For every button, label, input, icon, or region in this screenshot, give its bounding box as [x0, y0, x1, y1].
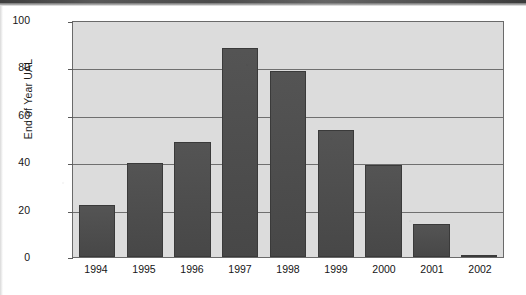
y-tick-label-100: 100 [0, 14, 30, 26]
x-tick-label-1997: 1997 [216, 263, 264, 275]
bar-slot-2000 [360, 22, 408, 257]
bar-slot-1994 [73, 22, 121, 257]
x-tick-label-1996: 1996 [168, 263, 216, 275]
bar-2001[interactable] [413, 224, 449, 257]
x-tick-label-2000: 2000 [360, 263, 408, 275]
bar-1997[interactable] [222, 48, 258, 257]
plot-area [72, 21, 504, 258]
bar-1994[interactable] [79, 205, 115, 257]
x-tick-label-2001: 2001 [408, 263, 456, 275]
bar-2002[interactable] [461, 255, 497, 257]
bar-slot-1999 [312, 22, 360, 257]
bar-slot-1997 [216, 22, 264, 257]
y-tick-label-60: 60 [0, 109, 30, 121]
x-tick-label-1994: 1994 [72, 263, 120, 275]
bar-slot-1995 [121, 22, 169, 257]
x-axis-labels: 1994 1995 1996 1997 1998 1999 2000 2001 … [72, 263, 504, 275]
y-tick-label-0: 0 [0, 251, 30, 263]
bar-slot-1996 [169, 22, 217, 257]
bar-1995[interactable] [127, 163, 163, 257]
bar-1996[interactable] [174, 142, 210, 257]
bar-chart-figure: End of Year UAL 100 80 60 40 20 0 [0, 0, 526, 295]
x-tick-label-1995: 1995 [120, 263, 168, 275]
y-tick-label-40: 40 [0, 156, 30, 168]
x-tick-label-1998: 1998 [264, 263, 312, 275]
tick-mark-0 [68, 258, 73, 259]
y-tick-label-20: 20 [0, 204, 30, 216]
bar-1998[interactable] [270, 71, 306, 257]
x-tick-label-2002: 2002 [456, 263, 504, 275]
bar-1999[interactable] [318, 130, 354, 257]
y-tick-label-80: 80 [0, 61, 30, 73]
bar-slot-2002 [455, 22, 503, 257]
bar-slot-1998 [264, 22, 312, 257]
bars-layer [73, 22, 503, 257]
x-tick-label-1999: 1999 [312, 263, 360, 275]
bar-slot-2001 [407, 22, 455, 257]
bar-2000[interactable] [365, 165, 401, 257]
